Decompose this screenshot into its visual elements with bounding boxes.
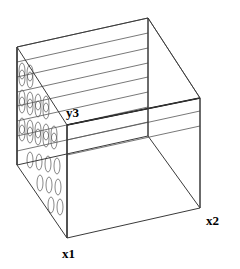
front-frame-outline — [67, 98, 200, 238]
axis-label-x1: x1 — [62, 246, 75, 261]
box-wireframe-group — [17, 18, 200, 238]
hatch-line — [17, 33, 148, 62]
face-mark-ellipse — [57, 199, 63, 215]
hatch-line — [17, 48, 148, 77]
face-mark-ellipse — [27, 152, 33, 168]
axis-label-y3: y3 — [66, 105, 80, 120]
box-diagram-svg: y3 x1 x2 — [0, 0, 240, 269]
axis-label-x2: x2 — [206, 213, 219, 228]
face-mark-ellipse — [46, 177, 52, 193]
bottom-right-edge — [148, 136, 200, 208]
face-mark-ellipse — [36, 154, 42, 170]
top-right-edge — [148, 18, 200, 98]
face-mark-ellipse — [37, 175, 43, 191]
front-plane-rule — [67, 111, 200, 140]
figure-root: y3 x1 x2 — [0, 0, 240, 269]
face-mark-ellipse — [55, 179, 61, 195]
left-face-ellipse-group — [19, 63, 63, 215]
interior-connector-group — [67, 18, 200, 155]
back-face-hatch-group — [17, 18, 148, 151]
front-plane-rule — [67, 126, 200, 155]
face-mark-ellipse — [48, 197, 54, 213]
face-mark-ellipse — [54, 158, 60, 174]
